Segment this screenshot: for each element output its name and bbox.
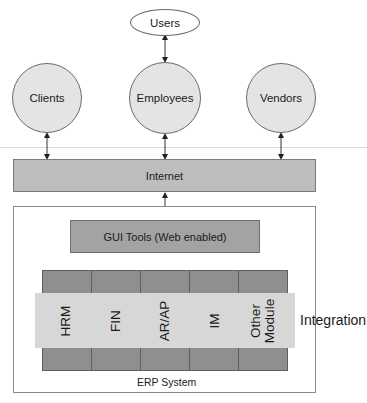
module-blocks-top — [42, 270, 288, 294]
users-node: Users — [130, 9, 200, 36]
module-block — [141, 271, 190, 293]
module-block — [239, 348, 287, 370]
module-label: FIN — [109, 310, 123, 332]
clients-node: Clients — [12, 63, 82, 133]
clients-label: Clients — [29, 92, 64, 104]
users-label: Users — [150, 17, 180, 29]
module-block — [190, 348, 239, 370]
module-block — [43, 348, 92, 370]
module-hrm: HRM — [42, 293, 91, 348]
integration-band: HRM FIN AR/AP IM Other Module — [35, 293, 295, 348]
module-other: Other Module — [239, 293, 288, 348]
gui-tools-box: GUI Tools (Web enabled) — [70, 220, 260, 253]
internet-label: Internet — [146, 170, 183, 182]
employees-label: Employees — [137, 92, 194, 104]
module-block — [43, 271, 92, 293]
employees-node: Employees — [129, 62, 201, 134]
module-block — [190, 271, 239, 293]
integration-label: Integration — [300, 312, 366, 328]
module-label: AR/AP — [158, 300, 172, 341]
gui-tools-label: GUI Tools (Web enabled) — [103, 231, 226, 243]
vendors-node: Vendors — [246, 63, 316, 133]
module-im: IM — [190, 293, 239, 348]
vendors-label: Vendors — [260, 92, 302, 104]
module-block — [92, 271, 141, 293]
module-block — [239, 271, 287, 293]
module-block — [141, 348, 190, 370]
module-block — [92, 348, 141, 370]
internet-bar: Internet — [13, 159, 316, 192]
module-label: IM — [207, 313, 221, 328]
module-blocks-bottom — [42, 347, 288, 371]
module-label: HRM — [60, 305, 74, 336]
erp-system-label: ERP System — [137, 376, 196, 388]
module-fin: FIN — [91, 293, 140, 348]
module-arap: AR/AP — [140, 293, 189, 348]
module-label: Other Module — [249, 298, 277, 342]
